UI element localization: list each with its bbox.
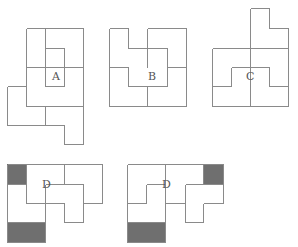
figure-label: D	[42, 178, 51, 191]
shaded-cell	[7, 222, 45, 242]
figure-label: B	[148, 70, 156, 83]
figure-label: C	[246, 70, 254, 83]
shaded-cell	[127, 222, 165, 242]
figure-b: B	[110, 29, 187, 107]
figure-a: A	[8, 29, 84, 145]
puzzle-diagram: A B C D D	[0, 0, 298, 247]
figure-d-right: D	[127, 164, 224, 243]
figure-d-left: D	[7, 164, 103, 243]
shaded-cell	[203, 164, 223, 184]
shaded-cell	[7, 164, 26, 184]
figure-label: D	[162, 178, 171, 191]
figure-label: A	[51, 70, 61, 83]
figure-c: C	[213, 9, 289, 107]
